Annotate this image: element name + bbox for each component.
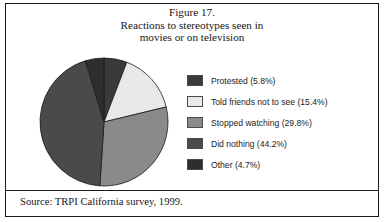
legend-item: Told friends not to see (15.4%)	[187, 91, 377, 112]
legend-item-label: Other (4.7%)	[211, 160, 260, 170]
legend-item-label: Stopped watching (29.8%)	[211, 118, 312, 128]
figure-title-line-1: Figure 17.	[0, 6, 384, 19]
figure-container: Figure 17. Reactions to stereotypes seen…	[0, 0, 384, 222]
legend-swatch-icon	[187, 159, 203, 170]
figure-title-line-3: movies or on television	[0, 31, 384, 44]
pie-chart-svg	[38, 56, 170, 188]
chart-legend: Protested (5.8%) Told friends not to see…	[187, 70, 377, 175]
legend-item: Did nothing (44.2%)	[187, 133, 377, 154]
pie-chart	[38, 56, 170, 188]
legend-swatch-icon	[187, 138, 203, 149]
legend-item: Stopped watching (29.8%)	[187, 112, 377, 133]
source-divider	[6, 190, 378, 191]
legend-item-label: Told friends not to see (15.4%)	[211, 97, 328, 107]
legend-item: Other (4.7%)	[187, 154, 377, 175]
legend-swatch-icon	[187, 75, 203, 86]
legend-item-label: Protested (5.8%)	[211, 76, 275, 86]
figure-title: Figure 17. Reactions to stereotypes seen…	[0, 6, 384, 44]
legend-item-label: Did nothing (44.2%)	[211, 139, 287, 149]
legend-swatch-icon	[187, 117, 203, 128]
legend-swatch-icon	[187, 96, 203, 107]
chart-area: Protested (5.8%) Told friends not to see…	[0, 46, 384, 194]
source-note: Source: TRPI California survey, 1999.	[20, 196, 183, 207]
figure-title-line-2: Reactions to stereotypes seen in	[0, 19, 384, 32]
legend-item: Protested (5.8%)	[187, 70, 377, 91]
